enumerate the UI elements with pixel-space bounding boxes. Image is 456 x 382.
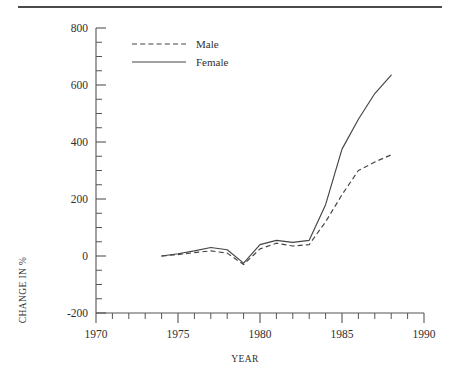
y-tick-label-800: 800 — [71, 22, 89, 34]
x-tick-label-1985: 1985 — [331, 328, 354, 340]
y-axis-title: CHANGE IN % — [18, 257, 28, 324]
legend: Male Female — [132, 38, 228, 68]
y-tick-label-200: 200 — [71, 193, 89, 205]
y-tick-label-600: 600 — [71, 79, 89, 91]
figure-container: 800 600 400 200 0 -200 CHANGE IN % — [0, 0, 456, 382]
x-axis: 1970 1975 1980 1985 1990 YEAR — [85, 313, 436, 364]
x-tick-label-1980: 1980 — [249, 328, 272, 340]
legend-label-female: Female — [196, 56, 228, 68]
y-tick-label-0: 0 — [82, 250, 88, 262]
data-series-group — [162, 75, 392, 265]
y-tick-label-minus200: -200 — [67, 307, 88, 319]
y-tick-label-400: 400 — [71, 136, 89, 148]
series-line-male — [162, 155, 392, 265]
x-tick-label-1975: 1975 — [167, 328, 190, 340]
x-axis-title: YEAR — [231, 354, 259, 364]
x-tick-label-1990: 1990 — [413, 328, 436, 340]
line-chart: 800 600 400 200 0 -200 CHANGE IN % — [0, 0, 456, 382]
y-axis: 800 600 400 200 0 -200 CHANGE IN % — [18, 22, 106, 323]
legend-label-male: Male — [196, 38, 219, 50]
series-line-female — [162, 75, 392, 263]
x-tick-label-1970: 1970 — [85, 328, 108, 340]
